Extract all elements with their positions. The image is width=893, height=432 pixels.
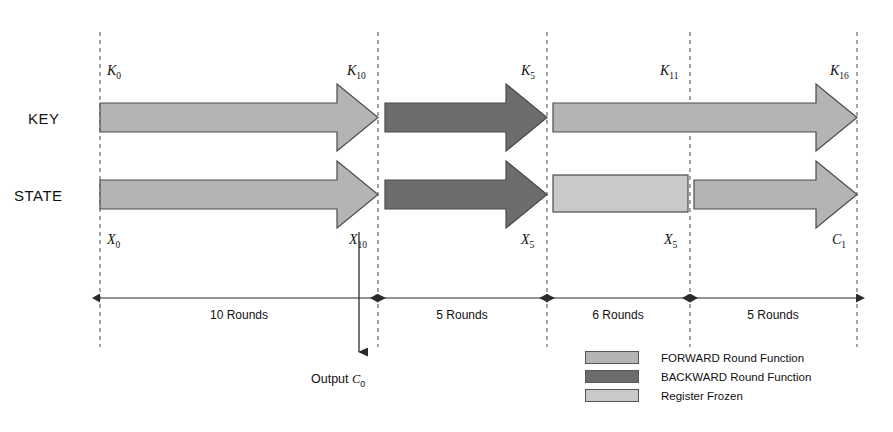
- node-label-state-s4-end: C1: [832, 232, 846, 250]
- node-label-state-s4-end-base: C: [832, 232, 841, 247]
- node-label-key-s3-mid-base: K: [660, 63, 669, 78]
- key-arrow-segment-2: [385, 84, 547, 151]
- rounds-label-segment-4: 5 Rounds: [723, 308, 823, 322]
- node-label-state-start-base: X: [107, 232, 116, 247]
- node-label-key-start: K0: [107, 63, 121, 81]
- node-label-key-s4-end-sub: 16: [839, 71, 849, 81]
- node-label-key-s4-end: K16: [830, 63, 849, 81]
- node-label-key-start-base: K: [107, 63, 116, 78]
- legend-frozen-swatch: [585, 389, 639, 402]
- node-label-state-s2-end-base: X: [521, 232, 530, 247]
- legend-frozen: Register Frozen: [585, 387, 875, 404]
- node-label-key-s3-mid: K11: [660, 63, 679, 81]
- rounds-label-segment-1: 10 Rounds: [189, 308, 289, 322]
- node-label-state-s2-end-sub: 5: [530, 240, 535, 250]
- legend-forward-label: FORWARD Round Function: [661, 352, 804, 364]
- legend-forward: FORWARD Round Function: [585, 349, 875, 366]
- node-label-key-s4-end-base: K: [830, 63, 839, 78]
- legend-frozen-label: Register Frozen: [661, 390, 743, 402]
- legend-backward-label: BACKWARD Round Function: [661, 371, 811, 383]
- legend-forward-swatch: [585, 351, 639, 364]
- node-label-key-s2-end-base: K: [521, 63, 530, 78]
- key-arrow-segment-3-4: [553, 84, 857, 151]
- row-label-key: KEY: [28, 110, 60, 127]
- node-label-key-s2-end: K5: [521, 63, 535, 81]
- state-arrow-segment-2: [385, 161, 547, 228]
- node-label-state-s4-end-sub: 1: [841, 240, 846, 250]
- state-arrow-segment-1: [100, 161, 378, 228]
- legend-backward: BACKWARD Round Function: [585, 368, 875, 385]
- node-label-state-s1-end-base: X: [349, 232, 358, 247]
- state-arrow-segment-4: [694, 161, 857, 228]
- legend: FORWARD Round Function BACKWARD Round Fu…: [585, 349, 875, 406]
- node-label-state-start-sub: 0: [116, 240, 121, 250]
- node-label-state-s3-end: X5: [664, 232, 677, 250]
- key-arrow-segment-1: [100, 84, 378, 151]
- legend-backward-swatch: [585, 370, 639, 383]
- node-label-state-s3-end-base: X: [664, 232, 673, 247]
- row-label-state: STATE: [14, 187, 63, 204]
- node-label-state-s1-end-sub: 10: [358, 240, 368, 250]
- output-label-sub: 0: [360, 379, 365, 389]
- rounds-label-segment-2: 5 Rounds: [412, 308, 512, 322]
- output-label-text: Output: [311, 372, 352, 386]
- node-label-state-s1-end: X10: [349, 232, 367, 250]
- output-label: Output C0: [311, 372, 365, 389]
- node-label-key-s1-end-base: K: [347, 63, 356, 78]
- node-label-key-s3-mid-sub: 11: [669, 71, 678, 81]
- schedule-diagram: KEY STATE K0 K10 K5 K11 K16 X0 X10 X5 X5…: [0, 0, 893, 432]
- node-label-state-s3-end-sub: 5: [673, 240, 678, 250]
- node-label-key-s1-end: K10: [347, 63, 366, 81]
- node-label-key-s2-end-sub: 5: [530, 71, 535, 81]
- state-frozen-register-segment-3: [553, 175, 688, 212]
- rounds-label-segment-3: 6 Rounds: [568, 308, 668, 322]
- node-label-key-start-sub: 0: [116, 71, 121, 81]
- node-label-key-s1-end-sub: 10: [356, 71, 366, 81]
- node-label-state-s2-end: X5: [521, 232, 534, 250]
- node-label-state-start: X0: [107, 232, 120, 250]
